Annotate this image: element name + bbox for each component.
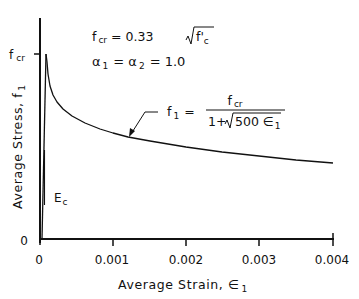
curve-formula-denominator-pre: 1+ xyxy=(208,114,226,129)
y-tick-label-fcr: fcr xyxy=(9,48,25,63)
curve-formula-denominator-root: 500 ∈1 xyxy=(235,114,280,131)
curve-formula-numerator: fcr xyxy=(227,93,242,109)
chart: 0 0.001 0.002 0.003 0.004 0 fcr Average … xyxy=(0,0,359,299)
x-tick-label-4: 0.004 xyxy=(315,253,349,267)
ec-line-outer xyxy=(42,54,46,239)
x-axis-title: Average Strain, ∈1 xyxy=(118,277,248,294)
curve-formula-lhs: f1= xyxy=(167,104,195,121)
y-tick-label-zero: 0 xyxy=(20,234,28,248)
x-tick-label-2: 0.002 xyxy=(169,253,203,267)
fcr-formula-root: f'c xyxy=(196,29,209,46)
alpha-annotation: α1= α2= 1.0 xyxy=(92,54,185,71)
ec-label: Ec xyxy=(54,191,68,207)
fcr-formula: fcr= 0.33 xyxy=(92,29,153,45)
x-tick-label-1: 0.001 xyxy=(95,253,129,267)
leader-line xyxy=(131,112,158,134)
y-axis-title: Average Stress, f1 xyxy=(10,84,27,209)
x-tick-label-3: 0.003 xyxy=(242,253,276,267)
x-tick-label-0: 0 xyxy=(35,253,43,267)
